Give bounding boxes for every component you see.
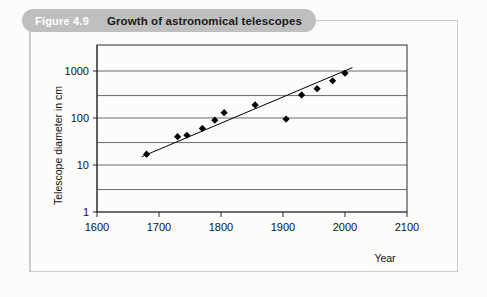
chart-trendline [142,68,353,157]
svg-text:10: 10 [77,159,89,171]
figure-title: Growth of astronomical telescopes [107,15,302,27]
chart-container: 1101001000 160017001800190020002100 Tele… [0,0,487,297]
x-axis-title: Year [374,252,396,264]
y-axis-title: Telescope diameter in cm [52,86,64,205]
chart-plot-frame [97,45,407,212]
figure-label-pill: Figure 4.9 Growth of astronomical telesc… [22,9,316,32]
data-point [283,115,290,122]
data-point [174,133,181,140]
svg-text:1000: 1000 [65,65,89,77]
chart-svg: 1101001000 160017001800190020002100 Tele… [0,0,487,297]
chart-gridlines [97,71,407,212]
svg-text:1700: 1700 [147,221,171,233]
data-point [183,132,190,139]
figure-header: Figure 4.9 Growth of astronomical telesc… [22,9,316,32]
data-point [143,151,150,158]
svg-text:1: 1 [83,206,89,218]
data-point [314,85,321,92]
svg-text:100: 100 [71,112,89,124]
chart-x-axis-ticks [97,212,407,217]
svg-text:1600: 1600 [85,221,109,233]
data-point [298,91,305,98]
chart-y-tick-labels: 1101001000 [65,65,89,218]
svg-text:1900: 1900 [271,221,295,233]
figure-number: Figure 4.9 [35,15,89,27]
data-point [221,109,228,116]
data-point [329,77,336,84]
svg-text:2100: 2100 [395,221,419,233]
chart-y-axis-ticks [93,45,97,212]
data-point [199,125,206,132]
svg-text:1800: 1800 [209,221,233,233]
svg-text:2000: 2000 [333,221,357,233]
chart-x-tick-labels: 160017001800190020002100 [85,221,419,233]
